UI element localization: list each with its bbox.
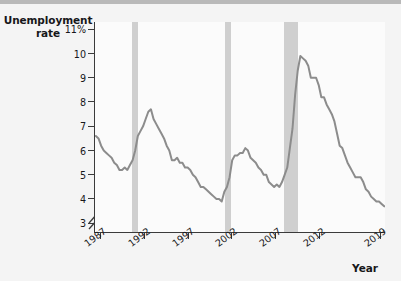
y-axis-tick-label: 9 bbox=[26, 72, 86, 83]
y-axis-tick-label: 7 bbox=[26, 121, 86, 132]
y-axis-tick-label: 3 bbox=[26, 218, 86, 229]
y-axis-tick-label: 10 bbox=[26, 48, 86, 59]
y-axis-tick-label: 4 bbox=[26, 194, 86, 205]
y-axis-tick-label: 5 bbox=[26, 169, 86, 180]
plot-area bbox=[94, 22, 385, 233]
x-axis-caption: Year bbox=[352, 262, 378, 274]
plot-inner bbox=[95, 22, 385, 232]
chart-figure: Unemployment rate 11%109876543 198719921… bbox=[0, 0, 401, 281]
y-axis-tick-label: 8 bbox=[26, 97, 86, 108]
y-axis-tick-labels: 11%109876543 bbox=[20, 0, 86, 281]
series-layer bbox=[95, 22, 385, 232]
unemployment-rate-line bbox=[96, 56, 384, 206]
y-axis-tick-label: 11% bbox=[26, 24, 86, 35]
y-axis-tick-label: 6 bbox=[26, 145, 86, 156]
